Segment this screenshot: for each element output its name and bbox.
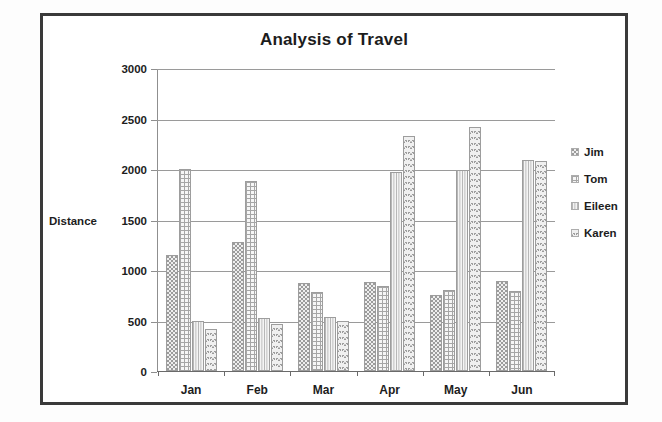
x-axis-label-jan: Jan bbox=[158, 383, 224, 397]
legend-item-tom[interactable]: Tom bbox=[571, 165, 641, 192]
x-axis-label-jun: Jun bbox=[489, 383, 555, 397]
y-axis-tick-mark bbox=[151, 322, 157, 323]
bar-karen-jun[interactable] bbox=[535, 161, 547, 371]
bar-karen-mar[interactable] bbox=[337, 321, 349, 372]
bar-group-may: May bbox=[423, 69, 489, 371]
bar-eileen-feb[interactable] bbox=[258, 318, 270, 371]
x-axis-label-apr: Apr bbox=[357, 383, 423, 397]
x-axis-tick-mark bbox=[489, 371, 490, 376]
bar-eileen-apr[interactable] bbox=[390, 172, 402, 371]
bar-chart: Analysis of Travel Distance 050010001500… bbox=[43, 16, 625, 402]
x-axis-label-feb: Feb bbox=[224, 383, 290, 397]
x-axis-tick-mark bbox=[290, 371, 291, 376]
legend-item-karen[interactable]: Karen bbox=[571, 219, 641, 246]
bar-jim-feb[interactable] bbox=[232, 242, 244, 371]
y-axis-tick-label: 0 bbox=[141, 366, 147, 378]
y-axis-tick-label: 500 bbox=[128, 316, 147, 328]
y-axis-tick-mark bbox=[151, 221, 157, 222]
legend-item-jim[interactable]: Jim bbox=[571, 138, 641, 165]
bar-tom-feb[interactable] bbox=[245, 181, 257, 371]
x-axis-label-may: May bbox=[423, 383, 489, 397]
legend-label: Eileen bbox=[584, 200, 618, 212]
y-axis-tick-mark bbox=[151, 372, 157, 373]
y-axis-label: Distance bbox=[49, 215, 97, 227]
bar-group-jan: Jan bbox=[158, 69, 224, 371]
scanned-figure-frame: Analysis of Travel Distance 050010001500… bbox=[40, 13, 628, 405]
y-axis-tick-label: 1500 bbox=[121, 215, 147, 227]
x-axis-tick-mark bbox=[158, 371, 159, 376]
bar-eileen-mar[interactable] bbox=[324, 317, 336, 371]
bar-jim-may[interactable] bbox=[430, 295, 442, 371]
bar-tom-jun[interactable] bbox=[509, 291, 521, 371]
y-axis-tick-mark bbox=[151, 271, 157, 272]
bar-group-mar: Mar bbox=[290, 69, 356, 371]
y-axis-tick-mark bbox=[151, 69, 157, 70]
chart-title: Analysis of Travel bbox=[43, 30, 625, 50]
x-axis-tick-mark bbox=[423, 371, 424, 376]
bar-karen-jan[interactable] bbox=[205, 329, 217, 371]
y-axis-tick-label: 2500 bbox=[121, 114, 147, 126]
bar-tom-apr[interactable] bbox=[377, 286, 389, 371]
legend-swatch-icon bbox=[571, 202, 579, 210]
bar-jim-jun[interactable] bbox=[496, 281, 508, 371]
legend-label: Tom bbox=[584, 173, 607, 185]
bar-karen-apr[interactable] bbox=[403, 136, 415, 371]
y-axis-tick-label: 1000 bbox=[121, 265, 147, 277]
x-axis-label-mar: Mar bbox=[290, 383, 356, 397]
bar-tom-mar[interactable] bbox=[311, 292, 323, 371]
y-axis-tick-mark bbox=[151, 120, 157, 121]
bar-group-feb: Feb bbox=[224, 69, 290, 371]
y-axis-tick-mark bbox=[151, 170, 157, 171]
screenshot-page: Analysis of Travel Distance 050010001500… bbox=[0, 0, 662, 422]
legend-label: Karen bbox=[584, 227, 617, 239]
bar-eileen-may[interactable] bbox=[456, 170, 468, 371]
bar-group-apr: Apr bbox=[357, 69, 423, 371]
y-axis-tick-label: 2000 bbox=[121, 164, 147, 176]
bar-karen-may[interactable] bbox=[469, 127, 481, 371]
bar-group-jun: Jun bbox=[489, 69, 555, 371]
legend-swatch-icon bbox=[571, 229, 579, 237]
bar-jim-apr[interactable] bbox=[364, 282, 376, 371]
bar-jim-mar[interactable] bbox=[298, 283, 310, 371]
legend-swatch-icon bbox=[571, 148, 579, 156]
bar-tom-jan[interactable] bbox=[179, 169, 191, 371]
bar-tom-may[interactable] bbox=[443, 290, 455, 371]
bar-groups: JanFebMarAprMayJun bbox=[158, 69, 555, 371]
plot-area: Distance 050010001500200025003000 JanFeb… bbox=[157, 69, 555, 372]
legend-label: Jim bbox=[584, 146, 604, 158]
x-axis-tick-mark bbox=[554, 371, 555, 376]
bar-karen-feb[interactable] bbox=[271, 324, 283, 371]
legend-item-eileen[interactable]: Eileen bbox=[571, 192, 641, 219]
y-axis-tick-label: 3000 bbox=[121, 63, 147, 75]
bar-eileen-jun[interactable] bbox=[522, 160, 534, 371]
x-axis-tick-mark bbox=[224, 371, 225, 376]
x-axis-tick-mark bbox=[357, 371, 358, 376]
bar-eileen-jan[interactable] bbox=[192, 321, 204, 372]
legend-swatch-icon bbox=[571, 175, 579, 183]
chart-legend: JimTomEileenKaren bbox=[571, 138, 641, 246]
bar-jim-jan[interactable] bbox=[166, 255, 178, 371]
